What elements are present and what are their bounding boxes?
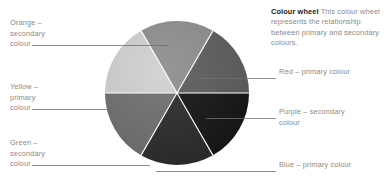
- caption-title: Colour wheel: [271, 7, 319, 16]
- label-blue: Blue – primary colour: [279, 160, 391, 171]
- label-yellow: Yellow – primary colour: [10, 82, 74, 114]
- label-orange: Orange – secondary colour: [10, 18, 74, 50]
- label-red: Red – primary colour: [279, 67, 391, 78]
- label-purple: Purple – secondary colour: [279, 107, 387, 128]
- colour-wheel-figure: Colour wheel This colour wheel represent…: [0, 0, 392, 185]
- label-green: Green – secondary colour: [10, 138, 76, 170]
- figure-caption: Colour wheel This colour wheel represent…: [271, 7, 389, 49]
